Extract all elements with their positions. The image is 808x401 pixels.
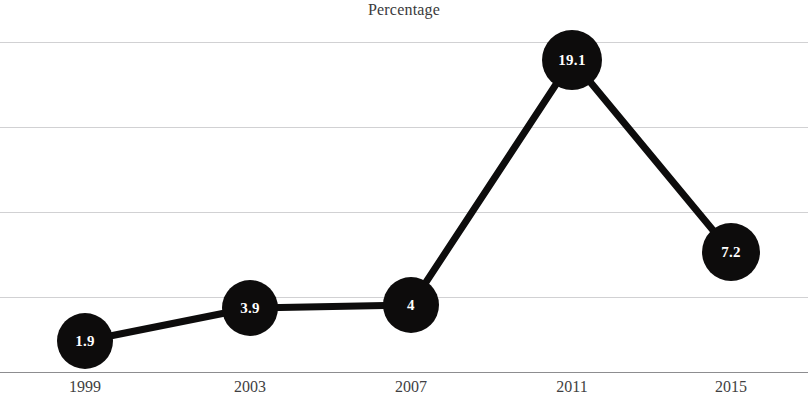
gridline-3 (0, 212, 808, 213)
data-point-marker[interactable]: 1.9 (57, 313, 113, 369)
data-point-marker[interactable]: 7.2 (702, 223, 760, 281)
data-point-label: 1.9 (75, 334, 95, 349)
chart-container: Percentage 1.9 3.9 4 19.1 7.2 1999 2003 … (0, 0, 808, 401)
x-axis-tick-label: 1999 (69, 378, 101, 396)
data-point-label: 4 (407, 298, 415, 313)
x-axis-tick-label: 2003 (234, 378, 266, 396)
x-axis-tick-label: 2007 (395, 378, 427, 396)
data-point-marker[interactable]: 19.1 (542, 30, 602, 90)
x-axis-tick-label: 2011 (556, 378, 587, 396)
x-axis-tick-label: 2015 (715, 378, 747, 396)
data-point-label: 7.2 (721, 245, 741, 260)
data-point-label: 3.9 (240, 301, 260, 316)
plot-area: 1.9 3.9 4 19.1 7.2 1999 2003 2007 2011 2… (0, 0, 808, 401)
data-point-marker[interactable]: 4 (383, 277, 439, 333)
x-axis-line (0, 372, 808, 373)
series-line (0, 0, 808, 401)
gridline-2 (0, 127, 808, 128)
data-point-marker[interactable]: 3.9 (222, 280, 278, 336)
data-point-label: 19.1 (558, 53, 585, 68)
gridline-1 (0, 42, 808, 43)
